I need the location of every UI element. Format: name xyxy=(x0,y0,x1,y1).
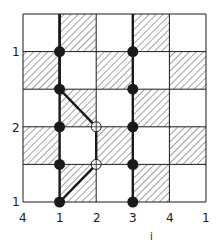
filled-dot xyxy=(54,46,65,57)
blank-cell xyxy=(96,14,133,52)
hatched-cell xyxy=(169,52,206,90)
blank-cell xyxy=(23,14,60,52)
blank-cell xyxy=(23,164,60,202)
blank-cell xyxy=(169,164,206,202)
hatched-cell xyxy=(133,164,170,202)
filled-dot xyxy=(127,46,138,57)
hatched-cell xyxy=(133,89,170,127)
bottom-label-0: 4 xyxy=(19,211,27,225)
filled-dot xyxy=(54,84,65,95)
filled-dot xyxy=(54,159,65,170)
bottom-label-4: 4 xyxy=(166,211,174,225)
left-label-1: 1 xyxy=(12,45,20,59)
left-label-2: 2 xyxy=(12,121,20,135)
filled-dot xyxy=(127,121,138,132)
bottom-label-1: 1 xyxy=(56,211,64,225)
filled-dot xyxy=(127,84,138,95)
filled-dot xyxy=(54,121,65,132)
left-label-3: 1 xyxy=(12,195,20,209)
hatched-cell xyxy=(23,52,60,90)
hatched-cell xyxy=(23,127,60,165)
hatched-cell xyxy=(169,127,206,165)
blank-cell xyxy=(133,52,170,90)
hatched-cell xyxy=(96,127,133,165)
blank-cell xyxy=(169,14,206,52)
blank-cell xyxy=(96,164,133,202)
hatched-cell xyxy=(96,52,133,90)
bottom-label-5: 1 xyxy=(202,211,210,225)
hatched-cell xyxy=(60,14,97,52)
blank-cell xyxy=(96,89,133,127)
checkerboard-diagram: 1 2 1 4 1 2 3 4 1 i xyxy=(0,0,219,244)
axis-label-i: i xyxy=(150,231,153,242)
bottom-label-3: 3 xyxy=(129,211,137,225)
hatched-cell xyxy=(133,14,170,52)
blank-cell xyxy=(169,89,206,127)
blank-cell xyxy=(60,127,97,165)
blank-cell xyxy=(60,52,97,90)
bottom-label-2: 2 xyxy=(93,211,101,225)
blank-cell xyxy=(23,89,60,127)
grid-cells xyxy=(23,14,206,202)
filled-dot xyxy=(127,159,138,170)
filled-dot xyxy=(127,197,138,208)
blank-cell xyxy=(133,127,170,165)
filled-dot xyxy=(54,197,65,208)
